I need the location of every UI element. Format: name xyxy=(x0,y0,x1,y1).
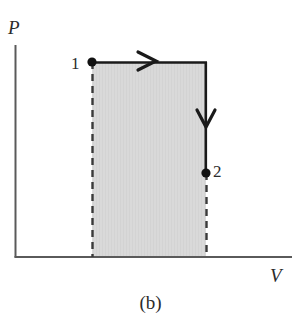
state-point-2-label: 2 xyxy=(213,163,222,180)
pv-diagram-figure: P V 1 2 (b) xyxy=(0,0,301,326)
y-axis-label: P xyxy=(8,18,20,37)
shaded-work-area xyxy=(92,62,206,257)
state-point-2-marker xyxy=(201,168,210,177)
figure-caption: (b) xyxy=(0,293,301,312)
state-point-1-label: 1 xyxy=(71,55,80,72)
x-axis-label: V xyxy=(270,266,282,285)
state-point-1-marker xyxy=(87,57,96,66)
pv-diagram-canvas xyxy=(0,0,301,326)
